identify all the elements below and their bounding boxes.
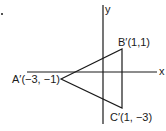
x-axis-label: x: [159, 65, 165, 77]
coordinate-plane: x y A′(−3, −1) B′(1,1) C′(1, −3): [0, 0, 166, 131]
vertex-label-b: B′(1,1): [118, 36, 150, 48]
stray-dot: [1, 13, 3, 15]
vertex-label-c: C′(1, −3): [110, 111, 152, 123]
y-axis-label: y: [105, 3, 111, 15]
triangle: [61, 49, 122, 108]
vertex-label-a: A′(−3, −1): [12, 73, 60, 85]
